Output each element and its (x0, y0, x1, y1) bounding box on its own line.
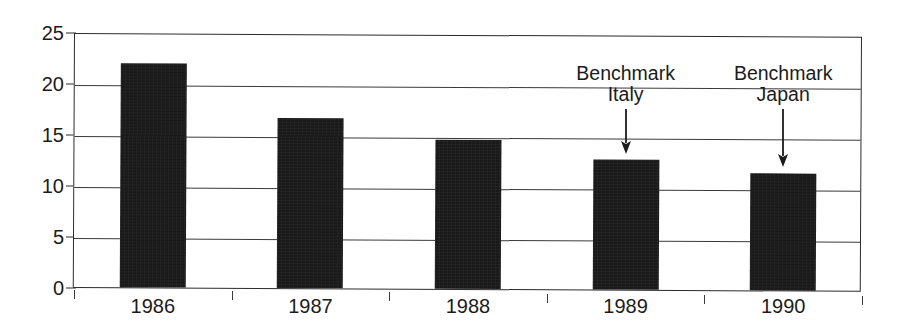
annotation-japan: BenchmarkJapan (734, 63, 833, 105)
annotation-italy: BenchmarkItaly (576, 63, 675, 105)
annotation-line-1: Benchmark (576, 63, 675, 84)
annotation-line-1: Benchmark (734, 63, 833, 84)
annotation-line-2: Italy (576, 84, 675, 105)
annotation-layer: BenchmarkItalyBenchmarkJapan (0, 0, 902, 334)
bar-chart: 0510152025 19861987198819891990 Benchmar… (0, 0, 902, 334)
annotation-line-2: Japan (734, 84, 833, 105)
down-arrow (615, 109, 637, 154)
down-arrow (772, 109, 794, 167)
